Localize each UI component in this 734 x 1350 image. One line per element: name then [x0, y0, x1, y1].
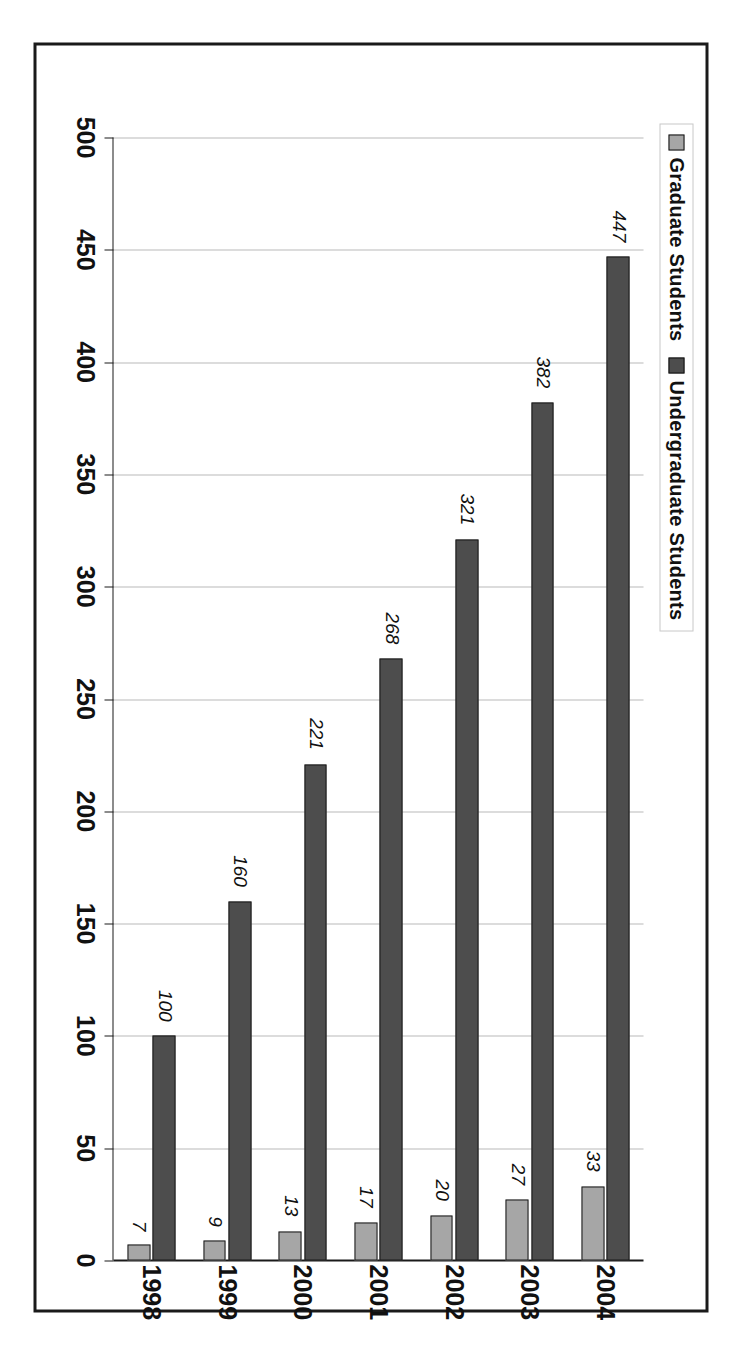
bar-graduate-2002: [430, 1215, 453, 1260]
category-label-2002: 2002: [439, 1264, 468, 1320]
bar-graduate-1998: [127, 1244, 150, 1260]
category-label-2000: 2000: [288, 1264, 317, 1320]
plot-area: 100716092211326817321203822744733: [113, 137, 643, 1260]
legend-swatch-graduate-icon: [668, 134, 684, 150]
value-axis-tick: [104, 1148, 113, 1149]
value-axis-tick: [104, 362, 113, 363]
value-axis-tick-label: 250: [70, 678, 99, 720]
chart-frame: Graduate StudentsUndergraduate Students …: [33, 42, 708, 1312]
bar-graduate-1999: [203, 1240, 226, 1260]
category-label-1998: 1998: [136, 1264, 165, 1320]
gridline: [113, 137, 643, 138]
gridline: [113, 699, 643, 700]
bar-label-undergraduate-1999: 160: [228, 855, 250, 887]
bar-label-undergraduate-2000: 221: [304, 718, 326, 750]
chart-legend: Graduate StudentsUndergraduate Students: [659, 123, 693, 631]
gridline: [113, 362, 643, 363]
gridline: [113, 1035, 643, 1036]
gridline: [113, 923, 643, 924]
bar-label-undergraduate-2001: 268: [380, 612, 402, 644]
bar-label-graduate-2002: 20: [430, 1179, 452, 1200]
gridline: [113, 586, 643, 587]
value-axis-tick-label: 0: [70, 1253, 99, 1267]
bar-label-graduate-2001: 17: [354, 1186, 376, 1207]
bar-label-undergraduate-2002: 321: [455, 493, 477, 525]
bar-graduate-2003: [505, 1199, 528, 1260]
legend-entry-graduate: Graduate Students: [665, 134, 688, 341]
value-axis-tick: [104, 923, 113, 924]
bar-undergraduate-1998: [152, 1035, 175, 1260]
value-axis-tick: [104, 699, 113, 700]
value-axis-tick: [104, 1035, 113, 1036]
value-axis-tick-label: 400: [70, 341, 99, 383]
category-label-1999: 1999: [212, 1264, 241, 1320]
value-axis-tick-label: 150: [70, 902, 99, 944]
gridline: [113, 249, 643, 250]
bar-graduate-2000: [278, 1231, 301, 1260]
bar-label-graduate-2003: 27: [506, 1163, 528, 1184]
value-axis-tick-label: 50: [70, 1134, 99, 1162]
bar-label-graduate-2000: 13: [279, 1195, 301, 1216]
bar-label-undergraduate-1998: 100: [153, 989, 175, 1021]
bar-undergraduate-1999: [228, 901, 251, 1260]
bar-label-graduate-1999: 9: [203, 1216, 225, 1227]
legend-swatch-undergraduate-icon: [668, 357, 684, 373]
legend-label: Graduate Students: [665, 157, 688, 341]
bar-undergraduate-2004: [606, 256, 629, 1260]
bar-undergraduate-2003: [531, 402, 554, 1260]
value-axis-tick: [104, 586, 113, 587]
value-axis-tick-label: 300: [70, 565, 99, 607]
bar-undergraduate-2000: [304, 764, 327, 1260]
value-axis-tick-label: 100: [70, 1015, 99, 1057]
category-label-2004: 2004: [591, 1264, 620, 1320]
chart-page: Graduate StudentsUndergraduate Students …: [0, 0, 734, 1350]
value-axis-tick-label: 350: [70, 453, 99, 495]
bar-label-undergraduate-2004: 447: [607, 210, 629, 242]
category-axis: 1998199920002001200220032004: [113, 1260, 643, 1310]
value-axis-tick: [104, 249, 113, 250]
value-axis-tick-label: 450: [70, 228, 99, 270]
category-label-2003: 2003: [515, 1264, 544, 1320]
legend-label: Undergraduate Students: [665, 380, 688, 620]
value-axis-tick-label: 200: [70, 790, 99, 832]
bar-label-undergraduate-2003: 382: [531, 356, 553, 388]
bar-graduate-2004: [581, 1186, 604, 1260]
bar-label-graduate-1998: 7: [127, 1220, 149, 1231]
bar-graduate-2001: [354, 1222, 377, 1260]
bar-label-graduate-2004: 33: [581, 1150, 603, 1171]
gridline: [113, 1148, 643, 1149]
gridline: [113, 474, 643, 475]
value-axis-tick: [104, 811, 113, 812]
gridline: [113, 811, 643, 812]
value-axis-tick: [104, 137, 113, 138]
chart-rotation-wrapper: Graduate StudentsUndergraduate Students …: [33, 42, 708, 1312]
value-axis-tick-label: 500: [70, 116, 99, 158]
value-axis: 500450400350300250200150100500: [43, 137, 113, 1260]
legend-entry-undergraduate: Undergraduate Students: [665, 357, 688, 620]
value-axis-tick: [104, 474, 113, 475]
value-axis-tick: [104, 1260, 113, 1261]
category-label-2001: 2001: [364, 1264, 393, 1320]
bar-undergraduate-2001: [379, 658, 402, 1260]
bar-undergraduate-2002: [455, 539, 478, 1260]
